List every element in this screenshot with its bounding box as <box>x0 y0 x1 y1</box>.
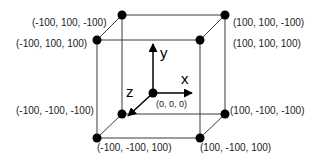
vertex-label-top-front-left: (-100, 100, 100) <box>16 38 87 49</box>
vertex-label-top-back-right: (100, 100, -100) <box>233 17 304 28</box>
edge-bottom-right-depth <box>200 114 225 138</box>
edge-top-right-depth <box>200 15 225 40</box>
y-axis-label: y <box>160 44 168 61</box>
x-axis-label: x <box>181 70 189 87</box>
origin-point <box>149 89 158 98</box>
vertex-label-bottom-back-left: (-100, -100, -100) <box>16 105 94 116</box>
edge-bottom-left-depth <box>97 114 122 138</box>
vertex-label-bottom-front-right: (100, -100, 100) <box>200 142 271 153</box>
vertex-top-back-right <box>221 11 230 20</box>
vertex-label-bottom-front-left: (-100, -100, 100) <box>97 142 172 153</box>
z-axis-label: z <box>126 83 134 100</box>
vertex-label-top-front-right: (100, 100, 100) <box>233 38 301 49</box>
cube-diagram: y x z (0, 0, 0) (-100, 100, -100) (100, … <box>0 0 318 160</box>
vertex-top-back-left <box>118 11 127 20</box>
vertex-label-top-back-left: (-100, 100, -100) <box>32 17 107 28</box>
vertex-top-front-left <box>93 36 102 45</box>
vertex-top-front-right <box>196 36 205 45</box>
origin-label: (0, 0, 0) <box>156 99 187 109</box>
vertex-label-bottom-back-right: (100, -100, -100) <box>230 105 305 116</box>
vertex-bottom-back-right <box>221 110 230 119</box>
vertex-bottom-back-left <box>118 110 127 119</box>
